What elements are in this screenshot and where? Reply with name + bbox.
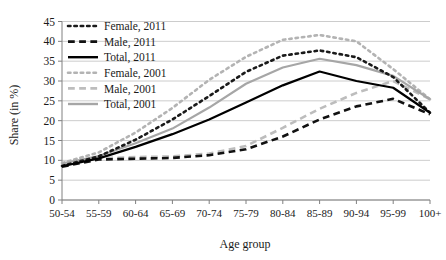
legend-label: Female, 2001 bbox=[104, 67, 167, 80]
x-tick-label: 75-79 bbox=[233, 207, 259, 219]
legend-label: Total, 2011 bbox=[104, 51, 156, 64]
x-axis-ticks bbox=[62, 200, 430, 204]
x-tick-label: 50-54 bbox=[49, 207, 75, 219]
legend-label: Male, 2011 bbox=[104, 36, 156, 49]
x-axis-tick-labels: 50-5455-5960-6465-6970-7475-7980-8485-89… bbox=[49, 207, 441, 219]
legend-label: Female, 2011 bbox=[104, 20, 166, 33]
y-axis-title: Share (in %) bbox=[7, 85, 21, 146]
x-tick-label: 65-69 bbox=[160, 207, 186, 219]
x-tick-label: 80-84 bbox=[270, 207, 296, 219]
y-tick-label: 25 bbox=[44, 95, 56, 107]
y-tick-label: 10 bbox=[44, 154, 56, 166]
y-tick-label: 15 bbox=[44, 135, 56, 147]
y-tick-label: 5 bbox=[49, 174, 55, 186]
line-chart: 051015202530354045 50-5455-5960-6465-697… bbox=[0, 0, 446, 260]
y-tick-label: 0 bbox=[49, 194, 55, 206]
y-axis-tick-labels: 051015202530354045 bbox=[44, 16, 63, 207]
x-tick-label: 90-94 bbox=[344, 207, 370, 219]
x-tick-label: 70-74 bbox=[196, 207, 222, 219]
legend-label: Total, 2001 bbox=[104, 98, 156, 111]
y-tick-label: 30 bbox=[44, 75, 56, 87]
y-tick-label: 40 bbox=[44, 35, 56, 47]
axis-lines bbox=[62, 22, 430, 201]
y-tick-label: 35 bbox=[44, 55, 56, 67]
x-tick-label: 60-64 bbox=[123, 207, 149, 219]
y-tick-label: 45 bbox=[44, 16, 56, 28]
chart-legend: Female, 2011Male, 2011Total, 2011Female,… bbox=[68, 20, 167, 111]
x-tick-label: 55-59 bbox=[86, 207, 112, 219]
x-tick-label: 95-99 bbox=[380, 207, 406, 219]
y-tick-label: 20 bbox=[44, 115, 56, 127]
x-tick-label: 100+ bbox=[419, 207, 442, 219]
gridlines bbox=[62, 22, 430, 201]
x-tick-label: 85-89 bbox=[307, 207, 333, 219]
legend-label: Male, 2001 bbox=[104, 83, 157, 96]
x-axis-title: Age group bbox=[220, 237, 271, 251]
chart-container: 051015202530354045 50-5455-5960-6465-697… bbox=[0, 0, 446, 260]
